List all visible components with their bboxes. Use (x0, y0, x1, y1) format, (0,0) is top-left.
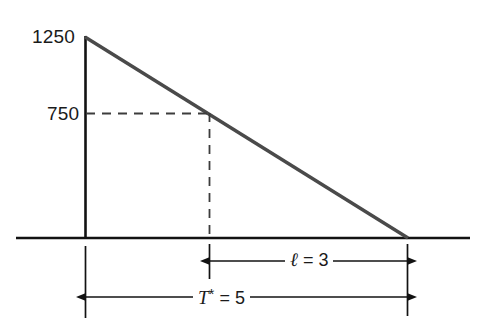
y-axis-label-mid-value: 750 (47, 104, 79, 123)
profile-decline-line (85, 37, 408, 238)
script-ell-symbol: ℓ (290, 249, 298, 270)
dimension-label-ell: ℓ = 3 (285, 250, 333, 269)
t-star-value: 5 (235, 288, 245, 308)
ell-equals-sign: = (298, 250, 319, 270)
figure-canvas: 1250 750 ℓ = 3 T* = 5 (0, 0, 481, 328)
technical-figure-graphic (0, 0, 481, 328)
y-axis-label-peak-value: 1250 (32, 27, 75, 46)
ell-value: 3 (318, 250, 328, 270)
t-star-equals-sign: = (214, 288, 235, 308)
dimension-label-t-star: T* = 5 (193, 286, 250, 307)
t-star-symbol: T (198, 287, 209, 308)
